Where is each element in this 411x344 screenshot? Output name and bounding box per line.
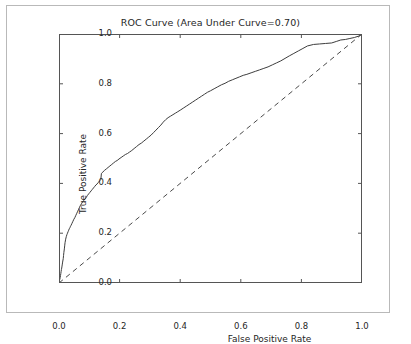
y-tick-label: 0.0 [86, 277, 112, 287]
x-tick-label: 0.2 [105, 321, 135, 331]
x-tick-label: 1.0 [347, 321, 377, 331]
x-tick-label: 0.4 [165, 321, 195, 331]
chart-title: ROC Curve (Area Under Curve=0.70) [59, 17, 362, 28]
x-tick-label: 0.8 [286, 321, 316, 331]
y-axis-label: True Positive Rate [78, 124, 88, 224]
y-tick-label: 0.8 [86, 78, 112, 88]
plot-canvas [59, 34, 362, 283]
y-tick-label: 0.2 [86, 227, 112, 237]
x-axis-label: False Positive Rate [118, 334, 411, 344]
plot-area: False Positive Rate True Positive Rate 0… [59, 34, 362, 283]
x-tick-label: 0.6 [226, 321, 256, 331]
x-tick-label: 0.0 [44, 321, 74, 331]
y-tick-label: 1.0 [86, 28, 112, 38]
y-tick-label: 0.4 [86, 177, 112, 187]
y-tick-label: 0.6 [86, 128, 112, 138]
